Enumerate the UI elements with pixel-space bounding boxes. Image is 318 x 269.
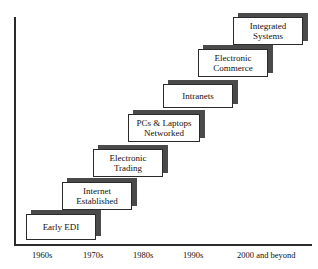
x-axis-line	[14, 244, 312, 246]
step-box-label-line: Electronic	[215, 53, 252, 64]
x-axis-label: 2000 and beyond	[237, 250, 296, 260]
step-box-label-line: Trading	[114, 163, 142, 174]
step-box-label-line: Networked	[144, 128, 184, 139]
step-box-label-line: PCs & Laptops	[136, 118, 191, 129]
step-box-body: PCs & LaptopsNetworked	[128, 114, 200, 142]
step-box-label-line: Electronic	[110, 153, 147, 164]
step-box-label-line: Integrated	[250, 21, 286, 32]
step-box: ElectronicTrading	[93, 149, 163, 177]
x-axis-label: 1960s	[32, 250, 52, 260]
step-box: InternetEstablished	[62, 182, 132, 210]
step-box: Intranets	[163, 84, 233, 108]
x-axis-label: 1990s	[183, 250, 203, 260]
x-axis-label: 1970s	[83, 250, 103, 260]
step-box: IntegratedSystems	[233, 17, 303, 45]
step-box: ElectronicCommerce	[198, 49, 268, 77]
step-box-body: IntegratedSystems	[233, 17, 303, 45]
step-box-label-line: Internet	[83, 186, 111, 197]
step-box-label-line: Early EDI	[43, 222, 80, 233]
step-box-body: ElectronicTrading	[93, 149, 163, 177]
step-box-body: InternetEstablished	[62, 182, 132, 210]
step-box: PCs & LaptopsNetworked	[128, 114, 200, 142]
step-box: Early EDI	[26, 214, 96, 240]
step-box-label-line: Intranets	[182, 91, 214, 102]
timeline-diagram: Early EDIInternetEstablishedElectronicTr…	[0, 0, 318, 269]
step-box-label-line: Systems	[253, 31, 283, 42]
step-box-body: ElectronicCommerce	[198, 49, 268, 77]
step-box-label-line: Commerce	[213, 63, 253, 74]
y-axis-line	[14, 17, 16, 246]
step-box-label-line: Established	[76, 196, 118, 207]
x-axis-label: 1980s	[133, 250, 153, 260]
cropped-title-remnant	[22, 0, 182, 2]
step-box-body: Intranets	[163, 84, 233, 108]
step-box-body: Early EDI	[26, 214, 96, 240]
